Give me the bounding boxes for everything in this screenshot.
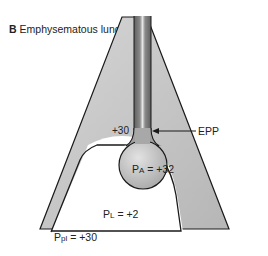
airway-tube <box>134 16 151 129</box>
lung-pressure-label: PL = +2 <box>103 208 139 220</box>
alveolus-neck-fill <box>135 128 150 144</box>
pleural-pressure-label: Ppl = +30 <box>54 231 97 243</box>
airway-pressure-label: +30 <box>112 125 129 136</box>
alveolar-pressure-label: PA = +32 <box>132 163 174 175</box>
epp-label: EPP <box>198 125 219 137</box>
emphysematous-lung-diagram: +30 EPP PA = +32 PL = +2 Ppl = +30 <box>0 0 268 256</box>
